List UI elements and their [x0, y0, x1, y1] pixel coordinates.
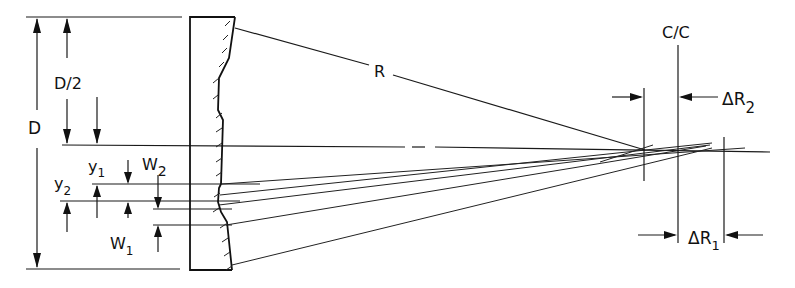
reflected-rays — [219, 143, 745, 265]
radius-line-R: R — [235, 28, 645, 150]
label-delta-R2: ΔR2 — [722, 89, 755, 117]
arrow-down-icon — [33, 253, 41, 268]
label-D-half: D/2 — [54, 74, 82, 93]
mirror-focus-diagram: D D/2 y1 y2 W2 — [0, 0, 795, 288]
center-of-curvature: C/C — [662, 23, 690, 243]
label-cc: C/C — [662, 23, 690, 42]
dimension-W1: W1 — [110, 225, 162, 258]
arrow-left-icon — [725, 231, 738, 239]
arrow-down-icon — [93, 129, 101, 144]
arrow-up-icon — [63, 202, 71, 214]
arrow-up-icon — [154, 225, 162, 237]
label-W1: W1 — [110, 234, 133, 258]
arrow-up-icon — [33, 18, 41, 33]
arrow-up-icon — [124, 202, 132, 214]
label-delta-R1: ΔR1 — [688, 228, 720, 253]
arrow-up-icon — [63, 18, 71, 33]
dimension-D-half: D/2 — [54, 18, 101, 144]
label-D: D — [28, 118, 41, 138]
arrow-right-icon — [664, 231, 677, 239]
mirror — [190, 17, 235, 270]
label-R: R — [374, 62, 385, 81]
arrow-down-icon — [63, 129, 71, 144]
zone-reference-lines — [60, 184, 260, 225]
label-y1: y1 — [88, 157, 105, 180]
arrow-left-icon — [679, 93, 692, 101]
arrow-down-icon — [154, 197, 162, 209]
label-y2: y2 — [54, 174, 71, 198]
label-W2: W2 — [142, 155, 167, 179]
arrow-up-icon — [93, 185, 101, 197]
dimension-D: D — [28, 18, 41, 268]
dimension-y2: y2 — [54, 174, 71, 232]
arrow-down-icon — [124, 172, 132, 184]
arrow-right-icon — [630, 93, 643, 101]
dimension-y1: y1 — [88, 157, 132, 218]
